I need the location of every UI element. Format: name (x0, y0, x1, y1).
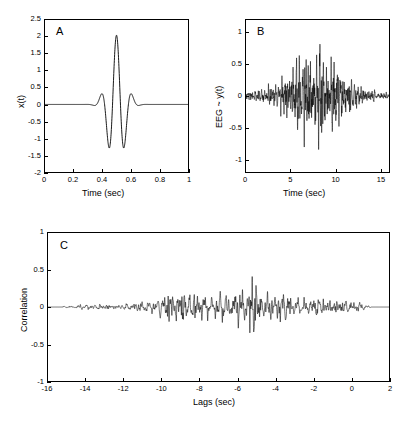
y-tick-label: 0 (19, 303, 44, 311)
y-tickmark (245, 32, 249, 33)
correlation-trace (48, 277, 389, 333)
y-tickmark (47, 307, 51, 308)
x-tick-label: -10 (147, 385, 175, 393)
panel-c-plot-area (47, 232, 390, 382)
y-tick-label: -0.5 (19, 341, 44, 349)
x-tick-label: 15 (367, 176, 395, 184)
x-tickmark (245, 169, 246, 173)
x-tickmark (314, 378, 315, 382)
x-tick-label: 10 (322, 176, 350, 184)
x-tickmark (189, 169, 190, 173)
x-tick-label: -4 (262, 385, 290, 393)
y-tickmark (47, 345, 51, 346)
y-tick-label: -1 (19, 378, 44, 386)
x-tickmark (160, 169, 161, 173)
x-tick-label: 0.8 (146, 176, 174, 184)
x-tick-label: -6 (224, 385, 252, 393)
x-tickmark (73, 169, 74, 173)
x-tick-label: 0 (30, 176, 58, 184)
x-tickmark (161, 378, 162, 382)
y-tickmark (44, 156, 48, 157)
y-tickmark (44, 53, 48, 54)
x-tick-label: -8 (185, 385, 213, 393)
eeg-trace (246, 44, 389, 149)
x-tickmark (131, 169, 132, 173)
y-tick-label: -1 (217, 156, 242, 164)
y-tickmark (44, 122, 48, 123)
y-tick-label: 2.5 (16, 15, 41, 23)
y-tickmark (47, 270, 51, 271)
y-tick-label: 0 (16, 101, 41, 109)
x-tick-label: 2 (376, 385, 404, 393)
y-tick-label: -0.5 (217, 124, 242, 132)
panel-b-waveform (246, 20, 389, 172)
x-tick-label: 1 (175, 176, 203, 184)
y-tickmark (44, 105, 48, 106)
x-tick-label: -16 (33, 385, 61, 393)
panel-a-xlabel: Time (sec) (82, 188, 124, 198)
y-tick-label: 0.5 (217, 60, 242, 68)
panel-a-plot-area (44, 19, 189, 173)
x-tickmark (276, 378, 277, 382)
y-tick-label: 1.5 (16, 49, 41, 57)
x-tickmark (390, 378, 391, 382)
y-tick-label: 2 (16, 32, 41, 40)
x-tick-label: 0 (231, 176, 259, 184)
x-tickmark (336, 169, 337, 173)
y-tick-label: 1 (217, 28, 242, 36)
x-tickmark (290, 169, 291, 173)
y-tickmark (245, 160, 249, 161)
y-tick-label: -2 (16, 169, 41, 177)
x-tick-label: -12 (109, 385, 137, 393)
y-tick-label: 1 (16, 66, 41, 74)
y-tickmark (44, 36, 48, 37)
panel-b-xlabel: Time (sec) (283, 188, 325, 198)
y-tickmark (245, 128, 249, 129)
x-tickmark (85, 378, 86, 382)
x-tick-label: 0.4 (88, 176, 116, 184)
y-tickmark (44, 70, 48, 71)
panel-a-waveform (45, 20, 188, 172)
y-tick-label: 1 (19, 228, 44, 236)
figure-container: A Time (sec) x(t) 00.20.40.60.81-2-1.5-1… (0, 0, 408, 429)
x-tickmark (352, 378, 353, 382)
x-tick-label: -2 (300, 385, 328, 393)
x-tick-label: 0.2 (59, 176, 87, 184)
panel-c-letter: C (60, 239, 68, 251)
panel-b-plot-area (245, 19, 390, 173)
y-tickmark (47, 382, 51, 383)
x-tick-label: -14 (71, 385, 99, 393)
y-tick-label: 0.5 (16, 83, 41, 91)
x-tick-label: 0 (338, 385, 366, 393)
y-tick-label: -0.5 (16, 118, 41, 126)
panel-c-waveform (48, 233, 389, 381)
y-tickmark (44, 139, 48, 140)
x-tickmark (102, 169, 103, 173)
y-tickmark (245, 96, 249, 97)
y-tickmark (47, 232, 51, 233)
x-tickmark (199, 378, 200, 382)
wavelet-trace (45, 35, 188, 148)
x-tickmark (238, 378, 239, 382)
y-tickmark (44, 173, 48, 174)
y-tick-label: 0.5 (19, 266, 44, 274)
x-tickmark (381, 169, 382, 173)
y-tickmark (44, 19, 48, 20)
panel-a-letter: A (56, 25, 63, 37)
x-tick-label: 5 (276, 176, 304, 184)
y-tickmark (245, 64, 249, 65)
x-tickmark (123, 378, 124, 382)
panel-c-xlabel: Lags (sec) (193, 397, 235, 407)
y-tick-label: -1 (16, 135, 41, 143)
y-tickmark (44, 87, 48, 88)
panel-b-letter: B (257, 25, 264, 37)
y-tick-label: -1.5 (16, 152, 41, 160)
y-tick-label: 0 (217, 92, 242, 100)
x-tick-label: 0.6 (117, 176, 145, 184)
